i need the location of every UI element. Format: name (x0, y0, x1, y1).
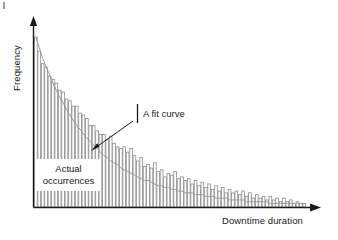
x-axis-arrowhead (310, 204, 321, 212)
histogram-bar (143, 166, 146, 207)
histogram-bar (119, 149, 122, 207)
histogram-bar (218, 191, 221, 207)
histogram-bar (109, 136, 112, 207)
actual-occurrences-line-1: Actual (55, 163, 81, 175)
histogram-bar (113, 143, 116, 207)
histogram-bar (191, 184, 194, 207)
histogram-bar (136, 161, 139, 207)
histogram-bar (184, 180, 187, 207)
histogram-bar (293, 203, 296, 207)
actual-occurrences-callout: Actual occurrences (36, 159, 101, 191)
histogram-bar (303, 203, 306, 207)
histogram-bar (133, 156, 136, 207)
histogram-bar (170, 175, 173, 207)
histogram-bar (228, 189, 231, 207)
histogram-bar (255, 195, 258, 207)
histogram-bar (296, 202, 299, 207)
histogram-bar (225, 193, 228, 207)
histogram-bar (150, 168, 153, 207)
histogram-bar (167, 173, 170, 207)
histogram-bar (221, 188, 224, 207)
histogram-bar (126, 152, 129, 207)
histogram-bar (208, 184, 211, 207)
figure-container: Frequency Downtime duration A fit curve … (0, 0, 338, 240)
actual-occurrences-line-2: occurrences (43, 175, 95, 187)
histogram-bar (283, 198, 286, 207)
histogram-bar (215, 186, 218, 207)
histogram-bar (198, 186, 201, 207)
histogram-bar (286, 202, 289, 207)
histogram-bar (102, 134, 105, 207)
histogram-bar (211, 189, 214, 207)
histogram-bar (238, 195, 241, 207)
y-axis-arrowhead (30, 16, 37, 26)
histogram-bar (242, 191, 245, 207)
histogram-bar (266, 200, 269, 207)
histogram-bar (147, 165, 150, 207)
histogram-bar (252, 198, 255, 207)
fit-curve-annotation-label: A fit curve (143, 108, 185, 119)
histogram-bar (279, 202, 282, 207)
histogram-bar (116, 147, 119, 207)
histogram-bar (300, 203, 303, 207)
histogram-bar (269, 196, 272, 207)
histogram-bar (130, 149, 133, 207)
histogram-bar (276, 198, 279, 207)
y-axis-label: Frequency (11, 45, 22, 91)
histogram-bar (123, 147, 126, 207)
histogram-bar (75, 106, 78, 207)
x-axis-label: Downtime duration (222, 215, 303, 226)
histogram-bar (157, 172, 160, 207)
histogram-plot (0, 0, 338, 240)
histogram-bar (140, 157, 143, 207)
histogram-bar (164, 177, 167, 207)
histogram-bar (235, 191, 238, 207)
histogram-bar (204, 188, 207, 207)
histogram-bar (249, 193, 252, 207)
histogram-bar (259, 198, 262, 207)
histogram-bar (177, 179, 180, 207)
histogram-bar (160, 170, 163, 207)
histogram-bar (106, 140, 109, 207)
